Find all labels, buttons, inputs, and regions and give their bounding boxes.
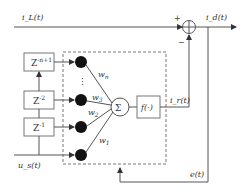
label-id: i_d(t) [206, 13, 227, 22]
svg-text:w3: w3 [92, 93, 103, 103]
label-ir: i_r(t) [170, 96, 190, 105]
label-e: e(t) [190, 170, 204, 179]
svg-text:w2: w2 [88, 108, 99, 118]
activation-label: f(·) [140, 103, 153, 112]
error-feedback-line [120, 27, 208, 182]
plus-sign: + [174, 14, 181, 23]
label-il: i_L(t) [22, 13, 43, 22]
input-node-2 [75, 121, 87, 133]
weight-line-1 [86, 112, 113, 152]
delay-box-2: Z-2 [24, 91, 54, 109]
input-node-1 [75, 149, 87, 161]
delay-box-n: Z-n+1 [24, 53, 54, 71]
delay-box-1: Z-1 [24, 118, 54, 136]
minus-sign: − [178, 38, 185, 47]
sigma-symbol: Σ [115, 103, 121, 113]
label-us: u_s(t) [18, 161, 41, 170]
ellipsis: ⋮ [78, 77, 87, 87]
diagram-canvas: i_L(t) + − i_d(t) e(t) i_r(t) Z-n+1 Z-2 … [0, 0, 248, 195]
svg-text:w1: w1 [99, 136, 110, 146]
input-node-n [75, 56, 87, 68]
svg-text:wn: wn [98, 70, 109, 80]
summing-junction [183, 21, 196, 34]
input-node-3 [75, 94, 87, 106]
